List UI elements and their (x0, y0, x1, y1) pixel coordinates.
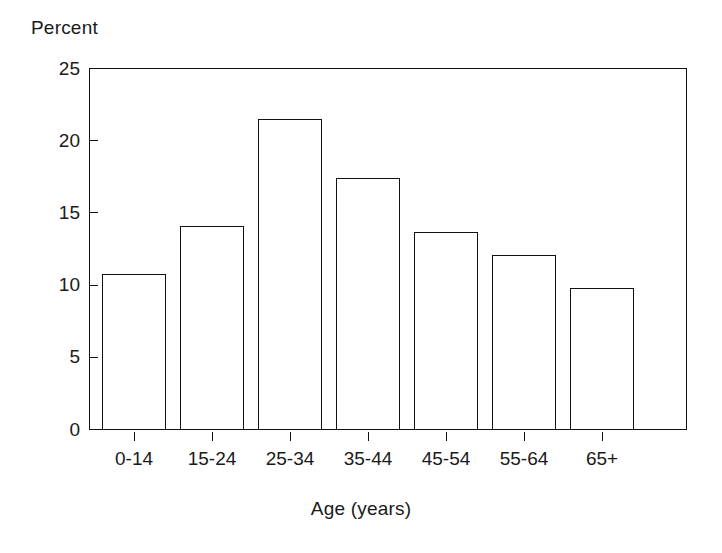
bars-layer (89, 68, 687, 430)
bar-chart-figure: Percent 25 20 15 10 5 0 0-14 15-24 25-34… (0, 0, 722, 553)
x-tick-mark-25-34 (290, 432, 291, 441)
bar-15-24[interactable] (180, 226, 244, 430)
x-tick-mark-15-24 (212, 432, 213, 441)
bar-0-14[interactable] (102, 274, 166, 430)
x-tick-label-65plus: 65+ (586, 448, 618, 470)
bar-45-54[interactable] (414, 232, 478, 430)
y-tick-label-15: 15 (34, 203, 80, 222)
y-tick-label-25: 25 (34, 59, 80, 78)
bar-25-34[interactable] (258, 119, 322, 430)
x-tick-label-35-44: 35-44 (344, 448, 393, 470)
bar-55-64[interactable] (492, 255, 556, 430)
y-tick-label-20: 20 (34, 131, 80, 150)
x-tick-mark-35-44 (368, 432, 369, 441)
x-tick-label-55-64: 55-64 (500, 448, 549, 470)
x-tick-mark-65plus (602, 432, 603, 441)
x-axis-title: Age (years) (0, 498, 722, 520)
y-axis-tick-labels: 25 20 15 10 5 0 (28, 0, 80, 553)
x-tick-label-15-24: 15-24 (188, 448, 237, 470)
x-tick-mark-0-14 (134, 432, 135, 441)
x-tick-label-45-54: 45-54 (422, 448, 471, 470)
x-tick-label-0-14: 0-14 (115, 448, 153, 470)
x-tick-label-25-34: 25-34 (266, 448, 315, 470)
bar-65plus[interactable] (570, 288, 634, 430)
x-tick-mark-45-54 (446, 432, 447, 441)
bar-35-44[interactable] (336, 178, 400, 430)
y-tick-label-5: 5 (34, 347, 80, 366)
x-tick-mark-55-64 (524, 432, 525, 441)
y-tick-label-0: 0 (34, 420, 80, 439)
y-tick-label-10: 10 (34, 275, 80, 294)
